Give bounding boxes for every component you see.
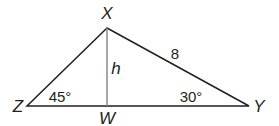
angle-z-label: 45° xyxy=(49,88,72,105)
triangle-diagram: X Z W Y h 8 45° 30° xyxy=(0,0,279,126)
altitude-h-label: h xyxy=(111,59,120,78)
diagram-canvas: X Z W Y h 8 45° 30° xyxy=(0,0,279,126)
vertex-w-label: W xyxy=(99,109,117,126)
vertex-x-label: X xyxy=(100,4,113,23)
vertex-z-label: Z xyxy=(12,97,24,116)
angle-y-label: 30° xyxy=(180,88,203,105)
vertex-y-label: Y xyxy=(253,97,266,116)
side-xy-length: 8 xyxy=(171,45,179,62)
